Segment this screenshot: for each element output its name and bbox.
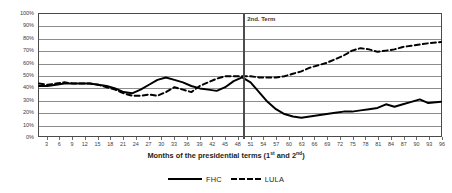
x-axis-tick-label: 81 — [375, 141, 381, 147]
x-axis-tick-label: 39 — [197, 141, 203, 147]
series-layer — [39, 14, 441, 136]
y-axis-tick-label: 60% — [23, 60, 34, 66]
x-axis-tick-mark — [314, 137, 315, 140]
x-axis-tick-mark — [238, 137, 239, 140]
x-axis-tick-mark — [442, 137, 443, 140]
legend-label-fhc: FHC — [206, 175, 222, 184]
x-axis-tick-label: 42 — [209, 141, 215, 147]
x-axis-tick-mark — [404, 137, 405, 140]
y-axis-tick-label: 50% — [23, 72, 34, 78]
y-axis-tick-label: 100% — [20, 10, 34, 16]
x-axis-tick-label: 93 — [426, 141, 432, 147]
x-axis-tick-mark — [327, 137, 328, 140]
y-axis-tick-label: 30% — [23, 97, 34, 103]
x-axis-tick-mark — [59, 137, 60, 140]
x-axis-tick-label: 72 — [337, 141, 343, 147]
x-axis-tick-label: 48 — [235, 141, 241, 147]
x-axis-tick-mark — [429, 137, 430, 140]
x-axis-tick-mark — [136, 137, 137, 140]
x-axis-tick-mark — [353, 137, 354, 140]
x-axis-tick-mark — [110, 137, 111, 140]
x-axis-tick-mark — [161, 137, 162, 140]
x-axis-tick-mark — [47, 137, 48, 140]
chart-container: 0%10%20%30%40%50%60%70%80%90%100% 2nd. T… — [0, 0, 452, 193]
x-axis-tick-label: 69 — [324, 141, 330, 147]
x-axis-tick-label: 15 — [95, 141, 101, 147]
x-axis: 3691215182124273033363942454851545760636… — [38, 137, 442, 151]
x-axis-title-text-b: and 2 — [275, 151, 296, 160]
x-axis-tick-mark — [276, 137, 277, 140]
y-axis-tick-label: 20% — [23, 109, 34, 115]
legend-label-lula: LULA — [265, 175, 284, 184]
x-axis-tick-mark — [251, 137, 252, 140]
x-axis-tick-mark — [263, 137, 264, 140]
x-axis-tick-label: 87 — [401, 141, 407, 147]
x-axis-title-text-a: Months of the presidential terms (1 — [147, 151, 270, 160]
x-axis-tick-mark — [212, 137, 213, 140]
x-axis-tick-label: 12 — [82, 141, 88, 147]
x-axis-tick-mark — [289, 137, 290, 140]
x-axis-tick-label: 54 — [260, 141, 266, 147]
chart-legend: FHC LULA — [0, 170, 452, 188]
x-axis-tick-label: 84 — [388, 141, 394, 147]
x-axis-tick-mark — [149, 137, 150, 140]
y-axis-tick-label: 80% — [23, 35, 34, 41]
plot-area: 2nd. Term — [38, 13, 442, 137]
x-axis-tick-label: 21 — [120, 141, 126, 147]
x-axis-tick-mark — [225, 137, 226, 140]
y-axis: 0%10%20%30%40%50%60%70%80%90%100% — [0, 0, 38, 150]
x-axis-tick-label: 24 — [133, 141, 139, 147]
second-term-divider-line — [243, 13, 244, 139]
x-axis-tick-mark — [187, 137, 188, 140]
x-axis-tick-mark — [302, 137, 303, 140]
legend-item-fhc: FHC — [168, 175, 222, 184]
y-axis-tick-label: 70% — [23, 47, 34, 53]
x-axis-tick-label: 3 — [45, 141, 48, 147]
x-axis-tick-mark — [365, 137, 366, 140]
x-axis-tick-mark — [85, 137, 86, 140]
x-axis-tick-label: 30 — [158, 141, 164, 147]
y-axis-tick-label: 10% — [23, 122, 34, 128]
x-axis-tick-label: 75 — [350, 141, 356, 147]
x-axis-tick-label: 36 — [184, 141, 190, 147]
legend-item-lula: LULA — [231, 175, 284, 184]
x-axis-title: Months of the presidential terms (1st an… — [0, 150, 452, 160]
x-axis-tick-mark — [174, 137, 175, 140]
x-axis-tick-mark — [378, 137, 379, 140]
x-axis-tick-label: 90 — [413, 141, 419, 147]
series-line-fhc — [39, 77, 441, 117]
x-axis-tick-mark — [340, 137, 341, 140]
x-axis-tick-label: 6 — [58, 141, 61, 147]
x-axis-tick-label: 96 — [439, 141, 445, 147]
x-axis-tick-mark — [200, 137, 201, 140]
y-axis-tick-label: 40% — [23, 84, 34, 90]
x-axis-tick-label: 78 — [362, 141, 368, 147]
x-axis-tick-label: 9 — [71, 141, 74, 147]
legend-swatch-dashed-icon — [231, 178, 261, 180]
second-term-label: 2nd. Term — [247, 16, 275, 22]
x-axis-tick-label: 27 — [146, 141, 152, 147]
x-axis-tick-label: 18 — [107, 141, 113, 147]
x-axis-tick-mark — [416, 137, 417, 140]
x-axis-tick-label: 60 — [286, 141, 292, 147]
y-axis-tick-label: 90% — [23, 22, 34, 28]
x-axis-tick-label: 66 — [311, 141, 317, 147]
y-axis-tick-label: 0% — [26, 134, 34, 140]
x-axis-tick-mark — [72, 137, 73, 140]
x-axis-tick-label: 45 — [222, 141, 228, 147]
x-axis-title-text-c: ) — [302, 151, 304, 160]
x-axis-tick-label: 51 — [248, 141, 254, 147]
series-line-lula — [39, 42, 441, 96]
x-axis-tick-mark — [123, 137, 124, 140]
x-axis-tick-label: 57 — [273, 141, 279, 147]
legend-swatch-solid-icon — [168, 178, 202, 180]
x-axis-tick-label: 33 — [171, 141, 177, 147]
x-axis-tick-mark — [98, 137, 99, 140]
x-axis-tick-label: 63 — [299, 141, 305, 147]
x-axis-tick-mark — [391, 137, 392, 140]
